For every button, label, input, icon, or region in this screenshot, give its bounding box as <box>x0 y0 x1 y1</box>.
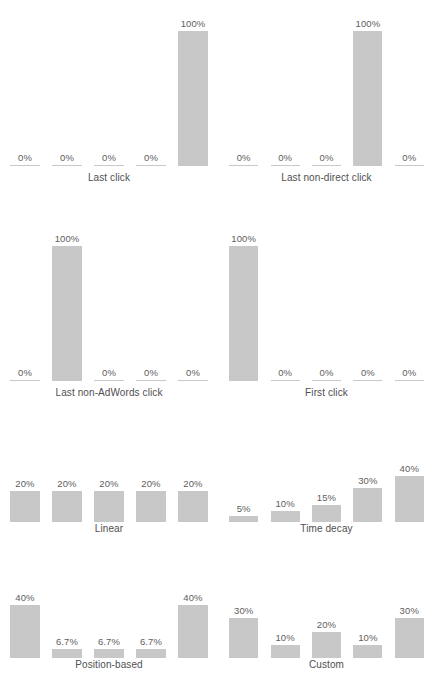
plot-area: 0%100%0%0%0% <box>4 229 214 381</box>
bar-value-label: 0% <box>320 367 334 378</box>
bar-group: 6.7% <box>52 636 81 658</box>
bar <box>10 491 39 522</box>
bar-group: 10% <box>271 632 300 658</box>
bar-value-label: 0% <box>278 152 292 163</box>
bar-group: 5% <box>229 503 258 522</box>
bar <box>94 649 123 658</box>
bar-value-label: 30% <box>400 605 419 616</box>
bar-group: 0% <box>312 367 341 381</box>
chart-title: First click <box>223 387 430 399</box>
bar-group: 0% <box>178 367 207 381</box>
bar-group: 100% <box>178 18 207 166</box>
bar-value-label: 15% <box>317 492 336 503</box>
bar <box>229 516 258 522</box>
bar-value-label: 5% <box>237 503 251 514</box>
bar <box>136 649 165 658</box>
bar-group: 20% <box>52 478 81 522</box>
bar-value-label: 0% <box>278 367 292 378</box>
bar <box>178 491 207 522</box>
bar <box>229 618 258 658</box>
bar-group: 10% <box>271 498 300 523</box>
chart-title: Time decay <box>223 523 430 535</box>
bar-value-label: 6.7% <box>98 636 120 647</box>
bar-value-label: 30% <box>358 475 377 486</box>
chart-panel: 0%0%0%100%0% <box>223 14 430 166</box>
bar-value-label: 10% <box>358 632 377 643</box>
bar-value-label: 0% <box>144 367 158 378</box>
bar-group: 0% <box>271 367 300 381</box>
bar <box>353 31 382 166</box>
bar-value-label: 0% <box>18 152 32 163</box>
chart-panel: 40%6.7%6.7%6.7%40% <box>4 592 214 658</box>
bar-group: 0% <box>94 152 123 166</box>
bar <box>136 491 165 522</box>
bar <box>10 165 39 166</box>
bar-group: 0% <box>395 152 424 166</box>
bar-value-label: 0% <box>18 367 32 378</box>
bar <box>395 165 424 166</box>
bar-value-label: 0% <box>402 152 416 163</box>
chart-title: Linear <box>4 523 214 535</box>
bar-group: 10% <box>353 632 382 658</box>
bar-group: 30% <box>229 605 258 658</box>
bar-value-label: 100% <box>231 233 256 244</box>
bar-value-label: 100% <box>356 18 381 29</box>
bar <box>395 618 424 658</box>
bar-value-label: 30% <box>234 605 253 616</box>
bar-value-label: 6.7% <box>56 636 78 647</box>
bar <box>395 380 424 381</box>
bar <box>52 246 81 381</box>
bar <box>52 491 81 522</box>
bar-value-label: 0% <box>102 367 116 378</box>
bar <box>178 380 207 381</box>
chart-title: Custom <box>223 659 430 671</box>
bar <box>52 165 81 166</box>
bar-group: 0% <box>229 152 258 166</box>
bar-value-label: 40% <box>400 463 419 474</box>
bar <box>94 380 123 381</box>
bar-value-label: 40% <box>183 592 202 603</box>
bar <box>10 605 39 658</box>
bar <box>94 491 123 522</box>
bar <box>136 380 165 381</box>
bar <box>312 505 341 522</box>
bar-value-label: 20% <box>99 478 118 489</box>
bar-value-label: 0% <box>320 152 334 163</box>
bar <box>312 632 341 658</box>
bar-group: 20% <box>10 478 39 522</box>
bar-value-label: 100% <box>181 18 206 29</box>
bar <box>271 645 300 658</box>
bar-group: 0% <box>94 367 123 381</box>
chart-title: Last non-AdWords click <box>4 387 214 399</box>
bar <box>271 380 300 381</box>
chart-panel: 20%20%20%20%20% <box>4 470 214 522</box>
bar <box>353 645 382 658</box>
bar-group: 100% <box>52 233 81 381</box>
bar-group: 100% <box>353 18 382 166</box>
chart-panel: 0%100%0%0%0% <box>4 229 214 381</box>
bar-group: 0% <box>52 152 81 166</box>
bar-group: 0% <box>10 152 39 166</box>
bar-group: 0% <box>353 367 382 381</box>
bar-value-label: 20% <box>317 619 336 630</box>
bar-value-label: 0% <box>402 367 416 378</box>
bar-value-label: 0% <box>60 152 74 163</box>
chart-panel: 100%0%0%0%0% <box>223 229 430 381</box>
plot-area: 0%0%0%100%0% <box>223 14 430 166</box>
bar <box>312 165 341 166</box>
bar <box>52 649 81 658</box>
bar <box>353 380 382 381</box>
bar-value-label: 40% <box>15 592 34 603</box>
bar-group: 0% <box>271 152 300 166</box>
chart-title: Position-based <box>4 659 214 671</box>
plot-area: 30%10%20%10%30% <box>223 592 430 658</box>
bar <box>229 246 258 381</box>
plot-area: 40%6.7%6.7%6.7%40% <box>4 592 214 658</box>
bar-group: 20% <box>94 478 123 522</box>
bar-value-label: 0% <box>237 152 251 163</box>
bar-group: 100% <box>229 233 258 381</box>
bar-group: 0% <box>136 367 165 381</box>
bar-group: 0% <box>395 367 424 381</box>
bar-group: 0% <box>136 152 165 166</box>
bar <box>229 165 258 166</box>
